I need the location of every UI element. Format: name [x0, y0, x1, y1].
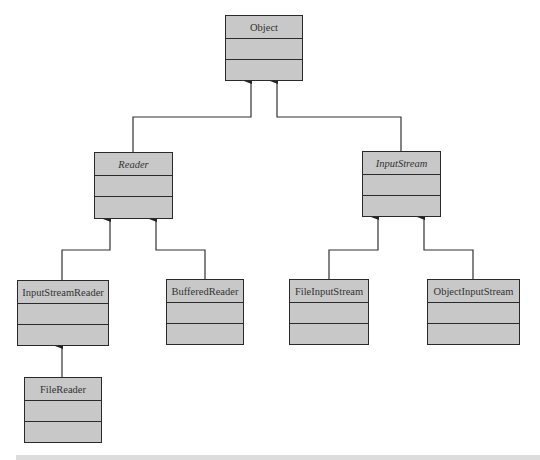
- class-box-objectinputstream: ObjectInputStream: [427, 279, 520, 345]
- class-name: BufferedReader: [167, 280, 243, 303]
- class-operations: [95, 197, 172, 218]
- class-operations: [363, 196, 440, 216]
- class-box-bufferedreader: BufferedReader: [166, 279, 244, 345]
- uml-class-diagram: Object Reader InputStream InputStreamRea…: [0, 0, 540, 460]
- class-name: ObjectInputStream: [428, 280, 519, 303]
- connector-objectinputstream-to-inputstream: [424, 217, 473, 279]
- class-box-inputstreamreader: InputStreamReader: [17, 280, 109, 346]
- class-attributes: [25, 401, 101, 422]
- connector-bufferedreader-to-reader: [156, 219, 205, 279]
- class-box-reader: Reader: [94, 152, 173, 219]
- class-attributes: [226, 39, 302, 60]
- class-operations: [18, 325, 108, 345]
- class-name: Object: [226, 16, 302, 39]
- class-box-fileinputstream: FileInputStream: [289, 279, 369, 345]
- class-name: Reader: [95, 153, 172, 176]
- class-box-filereader: FileReader: [24, 377, 102, 443]
- page-bottom-rule: [16, 455, 540, 460]
- class-operations: [25, 422, 101, 442]
- class-attributes: [167, 303, 243, 324]
- class-operations: [290, 324, 368, 344]
- connector-inputstreamreader-to-reader: [62, 219, 110, 280]
- class-name: InputStreamReader: [18, 281, 108, 304]
- class-operations: [428, 324, 519, 344]
- class-attributes: [18, 304, 108, 325]
- class-attributes: [290, 303, 368, 324]
- class-box-object: Object: [225, 15, 303, 81]
- class-name: FileReader: [25, 378, 101, 401]
- class-name: FileInputStream: [290, 280, 368, 303]
- class-operations: [167, 324, 243, 344]
- class-attributes: [428, 303, 519, 324]
- class-operations: [226, 60, 302, 80]
- class-attributes: [95, 176, 172, 197]
- connector-reader-to-object: [133, 81, 251, 152]
- connector-fileinputstream-to-inputstream: [329, 217, 378, 279]
- connector-inputstream-to-object: [277, 81, 401, 151]
- class-box-inputstream: InputStream: [362, 151, 441, 217]
- class-attributes: [363, 175, 440, 196]
- class-name: InputStream: [363, 152, 440, 175]
